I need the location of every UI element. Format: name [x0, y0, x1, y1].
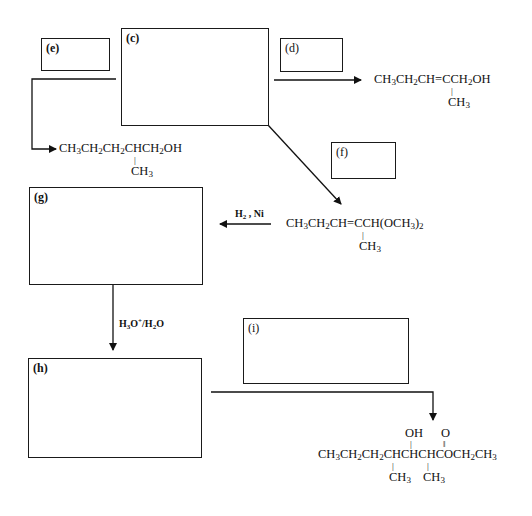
box-g-label: (g)	[34, 190, 48, 205]
box-d[interactable]: (d)	[280, 38, 343, 72]
box-h-label: (h)	[33, 361, 48, 376]
compound-saturated-alcohol: CH3CH2CH2CHCH2OH	[59, 141, 182, 156]
hydroxy-ester-oh: OH	[405, 426, 423, 441]
reagent-h2-ni: H2 , Ni	[235, 208, 264, 221]
arrow-h-to-hydroxy-ester	[211, 392, 433, 420]
box-e[interactable]: (e)	[41, 38, 110, 71]
box-i[interactable]: (i)	[243, 318, 409, 384]
box-h[interactable]: (h)	[28, 358, 202, 458]
box-e-label: (e)	[46, 41, 59, 56]
box-c[interactable]: (c)	[121, 28, 269, 126]
allylic-alcohol-methyl-branch: CH3	[448, 95, 470, 110]
box-d-label: (d)	[285, 41, 299, 56]
hydroxy-ester-methyl-branch-2: CH3	[423, 470, 445, 485]
box-f-label: (f)	[336, 145, 348, 160]
arrow-c-to-saturated-alcohol	[32, 79, 116, 149]
box-i-label: (i)	[248, 321, 259, 336]
reagent-h3o-plus: H3O+/H2O	[119, 317, 164, 331]
saturated-alcohol-methyl-branch: CH3	[131, 164, 153, 179]
acetal-methyl-branch: CH3	[359, 239, 381, 254]
compound-acetal: CH3CH2CH=CCH(OCH3)2	[286, 216, 424, 231]
compound-hydroxy-ester: CH3CH2CH2CHCHCHCOCH2CH3	[318, 447, 497, 462]
hydroxy-ester-methyl-branch-1: CH3	[389, 470, 411, 485]
box-f[interactable]: (f)	[331, 142, 396, 179]
compound-allylic-alcohol: CH3CH2CH=CCH2OH	[374, 72, 490, 87]
box-c-label: (c)	[126, 31, 139, 46]
box-g[interactable]: (g)	[29, 187, 203, 285]
